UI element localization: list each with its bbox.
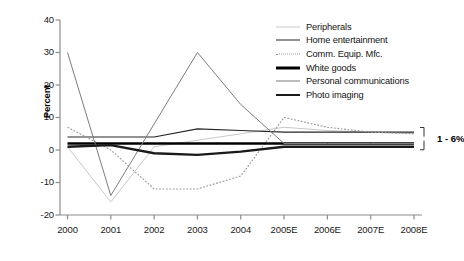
y-axis-tick-label: -20 bbox=[22, 209, 54, 220]
legend-item: Photo imaging bbox=[276, 88, 456, 102]
legend-item-label: Photo imaging bbox=[306, 90, 364, 100]
legend-item: Comm. Equip. Mfc. bbox=[276, 47, 456, 61]
x-axis-tick-label: 2008E bbox=[389, 224, 439, 235]
chart-annotation-layer bbox=[420, 128, 424, 150]
legend-line-swatch-icon bbox=[276, 49, 300, 59]
legend-line-swatch-icon bbox=[276, 90, 300, 100]
chart-legend: PeripheralsHome entertainmentComm. Equip… bbox=[276, 20, 456, 102]
y-axis-tick-label: 30 bbox=[22, 46, 54, 57]
legend-item: Home entertainment bbox=[276, 34, 456, 48]
legend-item: Personal communications bbox=[276, 74, 456, 88]
range-bracket-icon bbox=[420, 128, 424, 150]
legend-item-label: White goods bbox=[306, 63, 356, 73]
legend-line-swatch-icon bbox=[276, 76, 300, 86]
series-line-home-entertainment bbox=[68, 129, 415, 137]
series-line-photo-imaging bbox=[68, 145, 415, 155]
legend-item: White goods bbox=[276, 61, 456, 75]
y-axis-tick-label: 40 bbox=[22, 14, 54, 25]
series-line-comm-equip-mfc bbox=[68, 118, 415, 190]
y-axis-title: Percent bbox=[41, 75, 52, 129]
series-line-peripherals bbox=[68, 127, 415, 202]
legend-item-label: Comm. Equip. Mfc. bbox=[306, 49, 383, 59]
legend-item-label: Peripherals bbox=[306, 22, 351, 32]
y-axis-tick-label: -10 bbox=[22, 176, 54, 187]
legend-item: Peripherals bbox=[276, 20, 456, 34]
legend-line-swatch-icon bbox=[276, 63, 300, 73]
legend-line-swatch-icon bbox=[276, 35, 300, 45]
legend-item-label: Home entertainment bbox=[306, 35, 388, 45]
legend-line-swatch-icon bbox=[276, 22, 300, 32]
y-axis-tick-label: 0 bbox=[22, 144, 54, 155]
range-annotation-label: 1 - 6% bbox=[437, 133, 464, 144]
legend-item-label: Personal communications bbox=[306, 76, 409, 86]
